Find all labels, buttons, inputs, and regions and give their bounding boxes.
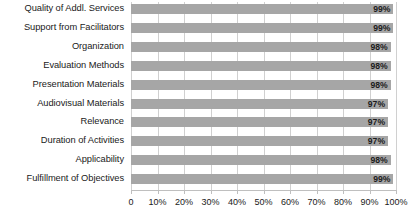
x-tick (396, 190, 397, 194)
bar (131, 117, 388, 127)
bar-chart: Quality of Addl. ServicesSupport from Fa… (0, 0, 408, 221)
x-tick (290, 190, 291, 194)
x-tick (264, 190, 265, 194)
x-tick (211, 190, 212, 194)
category-label: Organization (72, 40, 124, 52)
plot-area: 99%99%98%98%98%97%97%97%98%99% (131, 2, 396, 190)
category-label: Support from Facilitators (24, 21, 124, 33)
bar-row: 99% (131, 174, 396, 184)
bar-row: 99% (131, 23, 396, 33)
x-tick-label: 90% (360, 197, 378, 207)
bar-value-label: 99% (367, 173, 390, 185)
bar (131, 136, 388, 146)
x-tick-label: 80% (334, 197, 352, 207)
bar-value-label: 98% (365, 79, 388, 91)
bar-row: 98% (131, 80, 396, 90)
bar-value-label: 98% (365, 60, 388, 72)
x-tick-label: 10% (148, 197, 166, 207)
bar-value-label: 99% (367, 22, 390, 34)
x-tick-label: 20% (175, 197, 193, 207)
category-axis-labels: Quality of Addl. ServicesSupport from Fa… (0, 0, 128, 190)
bar-row: 99% (131, 4, 396, 14)
category-label: Quality of Addl. Services (24, 2, 124, 14)
bar-value-label: 98% (365, 41, 388, 53)
bar (131, 99, 388, 109)
x-tick-label: 30% (201, 197, 219, 207)
x-tick-label: 50% (254, 197, 272, 207)
x-tick (317, 190, 318, 194)
bar-row: 97% (131, 117, 396, 127)
x-tick (184, 190, 185, 194)
bar (131, 61, 391, 71)
category-label: Fulfillment of Objectives (27, 172, 124, 184)
x-tick-label: 0 (128, 197, 133, 207)
bar-row: 98% (131, 155, 396, 165)
bar-row: 98% (131, 61, 396, 71)
bar-row: 97% (131, 136, 396, 146)
category-label: Duration of Activities (41, 134, 124, 146)
x-tick (131, 190, 132, 194)
category-label: Evaluation Methods (43, 59, 124, 71)
gridline-100 (396, 2, 397, 190)
category-label: Relevance (81, 115, 124, 127)
bar-value-label: 97% (362, 116, 385, 128)
x-tick (343, 190, 344, 194)
bar-row: 97% (131, 99, 396, 109)
bar-value-label: 97% (362, 135, 385, 147)
bar (131, 174, 393, 184)
bar-value-label: 97% (362, 98, 385, 110)
x-tick-label: 100% (384, 197, 407, 207)
bar (131, 42, 391, 52)
bar-row: 98% (131, 42, 396, 52)
category-label: Presentation Materials (33, 78, 124, 90)
bar-value-label: 98% (365, 154, 388, 166)
x-tick-label: 40% (228, 197, 246, 207)
x-tick-label: 70% (307, 197, 325, 207)
category-label: Audiovisual Materials (37, 97, 124, 109)
bar-value-label: 99% (367, 3, 390, 15)
bar (131, 4, 393, 14)
x-tick (237, 190, 238, 194)
x-tick-label: 60% (281, 197, 299, 207)
bar (131, 23, 393, 33)
x-tick (158, 190, 159, 194)
category-label: Applicability (76, 153, 124, 165)
bar (131, 155, 391, 165)
bar (131, 80, 391, 90)
x-tick (370, 190, 371, 194)
